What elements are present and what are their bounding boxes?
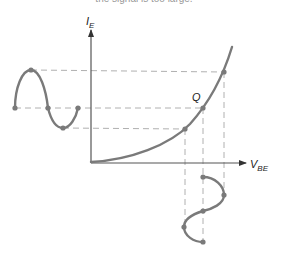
characteristic-curve xyxy=(91,47,232,162)
diode-characteristic-diagram: IE VBE Q xyxy=(0,0,288,254)
x-axis-label: VBE xyxy=(250,158,269,173)
q-point-label: Q xyxy=(192,91,201,103)
q-point xyxy=(200,105,205,110)
output-waveform xyxy=(15,70,78,128)
axes xyxy=(91,30,246,163)
y-axis-label: IE xyxy=(86,15,95,30)
